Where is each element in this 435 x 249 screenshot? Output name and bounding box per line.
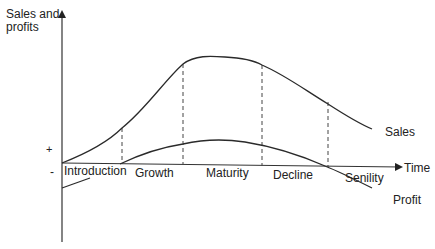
life-cycle-diagram [0, 0, 435, 249]
x-axis-label: Time [404, 162, 430, 175]
sales-curve [62, 56, 372, 163]
profit-initial-segment [62, 178, 90, 188]
stage-decline: Decline [273, 169, 313, 182]
stage-introduction: Introduction [64, 165, 127, 178]
sales-label: Sales [385, 126, 415, 139]
plus-sign: + [46, 143, 52, 156]
minus-sign: - [50, 166, 54, 179]
y-axis-label: Sales and profits [6, 8, 59, 34]
y-axis-label-line-2: profits [6, 21, 59, 34]
stage-senility: Senility [345, 172, 384, 185]
stage-maturity: Maturity [206, 167, 249, 180]
stage-growth: Growth [135, 167, 174, 180]
profit-label: Profit [393, 194, 421, 207]
